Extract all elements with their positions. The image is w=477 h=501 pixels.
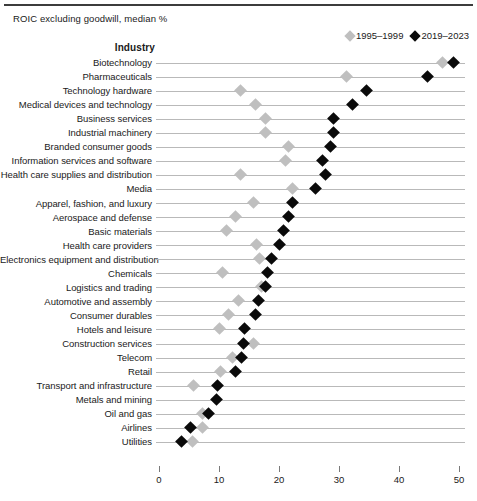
category-label: Consumer durables bbox=[0, 309, 152, 323]
axis-tick-label: 40 bbox=[384, 474, 414, 485]
category-label: Transport and infrastructure bbox=[0, 379, 152, 393]
data-marker-1995-1999 bbox=[282, 140, 295, 153]
data-marker-2019-2023 bbox=[175, 435, 188, 448]
axis-tick-label: 30 bbox=[324, 474, 354, 485]
category-label: Health care providers bbox=[0, 239, 152, 253]
row-leader-line bbox=[156, 63, 465, 64]
chart-row: Logistics and trading bbox=[0, 281, 477, 295]
data-marker-2019-2023 bbox=[309, 182, 322, 195]
data-marker-1995-1999 bbox=[220, 224, 233, 237]
chart-row: Construction services bbox=[0, 337, 477, 351]
category-label: Media bbox=[0, 182, 152, 196]
row-leader-line bbox=[156, 358, 465, 359]
dot-plot-area: BiotechnologyPharmaceuticalsTechnology h… bbox=[0, 56, 477, 466]
data-marker-1995-1999 bbox=[279, 154, 292, 167]
data-marker-1995-1999 bbox=[196, 421, 209, 434]
chart-row: Oil and gas bbox=[0, 407, 477, 421]
legend-label-new: 2019–2023 bbox=[421, 31, 469, 41]
data-marker-2019-2023 bbox=[327, 112, 340, 125]
row-leader-line bbox=[156, 175, 465, 176]
data-marker-1995-1999 bbox=[340, 70, 353, 83]
category-label: Hotels and leisure bbox=[0, 323, 152, 337]
data-marker-1995-1999 bbox=[286, 182, 299, 195]
data-marker-1995-1999 bbox=[213, 323, 226, 336]
row-leader-line bbox=[156, 77, 465, 78]
axis-tick bbox=[279, 466, 280, 472]
chart-row: Utilities bbox=[0, 435, 477, 449]
row-leader-line bbox=[156, 386, 465, 387]
data-marker-2019-2023 bbox=[319, 168, 332, 181]
legend-label-old: 1995–1999 bbox=[356, 31, 404, 41]
data-marker-2019-2023 bbox=[229, 365, 242, 378]
data-marker-1995-1999 bbox=[259, 112, 272, 125]
row-leader-line bbox=[156, 259, 465, 260]
data-marker-1995-1999 bbox=[259, 126, 272, 139]
chart-row: Telecom bbox=[0, 351, 477, 365]
category-label: Electronics equipment and distribution bbox=[0, 253, 152, 267]
axis-tick-label: 0 bbox=[144, 474, 174, 485]
category-label: Health care supplies and distribution bbox=[0, 168, 152, 182]
row-leader-line bbox=[156, 231, 465, 232]
data-marker-2019-2023 bbox=[324, 140, 337, 153]
chart-row: Consumer durables bbox=[0, 309, 477, 323]
data-marker-1995-1999 bbox=[222, 309, 235, 322]
data-marker-1995-1999 bbox=[253, 252, 266, 265]
axis-tick bbox=[159, 466, 160, 472]
axis-tick bbox=[339, 466, 340, 472]
x-axis: 01020304050 bbox=[0, 466, 477, 501]
category-label: Aerospace and defense bbox=[0, 211, 152, 225]
data-marker-2019-2023 bbox=[421, 70, 434, 83]
data-marker-2019-2023 bbox=[346, 98, 359, 111]
chart-row: Biotechnology bbox=[0, 56, 477, 70]
data-marker-2019-2023 bbox=[265, 252, 278, 265]
row-leader-line bbox=[156, 161, 465, 162]
legend-entry-2019-2023: 2019–2023 bbox=[411, 31, 469, 41]
header-divider-rule bbox=[4, 4, 473, 6]
legend-diamond-icon-new bbox=[410, 30, 421, 41]
category-label: Apparel, fashion, and luxury bbox=[0, 197, 152, 211]
chart-row: Pharmaceuticals bbox=[0, 70, 477, 84]
chart-row: Media bbox=[0, 182, 477, 196]
category-label: Industrial machinery bbox=[0, 126, 152, 140]
category-label: Chemicals bbox=[0, 267, 152, 281]
category-label: Branded consumer goods bbox=[0, 140, 152, 154]
category-label: Medical devices and technology bbox=[0, 98, 152, 112]
row-leader-line bbox=[156, 442, 465, 443]
row-leader-line bbox=[156, 119, 465, 120]
category-label: Information services and software bbox=[0, 154, 152, 168]
chart-row: Technology hardware bbox=[0, 84, 477, 98]
chart-row: Information services and software bbox=[0, 154, 477, 168]
category-label: Pharmaceuticals bbox=[0, 70, 152, 84]
chart-row: Health care supplies and distribution bbox=[0, 168, 477, 182]
row-leader-line bbox=[156, 287, 465, 288]
chart-row: Airlines bbox=[0, 421, 477, 435]
category-label: Utilities bbox=[0, 435, 152, 449]
data-marker-1995-1999 bbox=[250, 238, 263, 251]
data-marker-2019-2023 bbox=[235, 351, 248, 364]
chart-legend: 1995–1999 2019–2023 bbox=[346, 31, 469, 41]
row-leader-line bbox=[156, 301, 465, 302]
row-leader-line bbox=[156, 91, 465, 92]
category-label: Airlines bbox=[0, 421, 152, 435]
data-marker-1995-1999 bbox=[234, 84, 247, 97]
row-leader-line bbox=[156, 203, 465, 204]
row-leader-line bbox=[156, 245, 465, 246]
data-marker-1995-1999 bbox=[187, 379, 200, 392]
axis-tick bbox=[399, 466, 400, 472]
category-label: Metals and mining bbox=[0, 393, 152, 407]
chart-row: Electronics equipment and distribution bbox=[0, 253, 477, 267]
data-marker-2019-2023 bbox=[261, 266, 274, 279]
axis-tick-label: 10 bbox=[204, 474, 234, 485]
data-marker-2019-2023 bbox=[316, 154, 329, 167]
data-marker-2019-2023 bbox=[273, 238, 286, 251]
data-marker-2019-2023 bbox=[447, 56, 460, 69]
chart-row: Industrial machinery bbox=[0, 126, 477, 140]
row-leader-line bbox=[156, 273, 465, 274]
axis-tick-label: 50 bbox=[444, 474, 474, 485]
row-leader-line bbox=[156, 133, 465, 134]
data-marker-2019-2023 bbox=[184, 421, 197, 434]
row-leader-line bbox=[156, 329, 465, 330]
chart-row: Hotels and leisure bbox=[0, 323, 477, 337]
chart-row: Chemicals bbox=[0, 267, 477, 281]
chart-row: Business services bbox=[0, 112, 477, 126]
